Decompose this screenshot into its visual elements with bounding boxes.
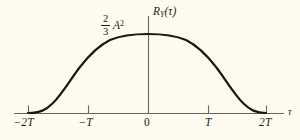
plot-canvas: [0, 0, 300, 140]
autocorrelation-curve: [28, 34, 266, 113]
tick-text: 2T: [259, 116, 272, 128]
x-tick-label-2T: 2T: [259, 117, 272, 129]
tick-text: T: [205, 116, 212, 128]
fraction-two-thirds: 2 3: [101, 14, 110, 37]
x-tick-label-minus-T: −T: [79, 117, 93, 129]
peak-value-label: 2 3 A2: [101, 14, 124, 37]
y-axis-label-symbol: R: [153, 5, 160, 17]
x-tick-label-minus-2T: −2T: [14, 117, 34, 129]
x-tick-label-zero: 0: [144, 117, 150, 129]
tick-text: 2T: [21, 116, 34, 128]
amplitude-squared: A2: [113, 20, 124, 32]
tick-text: 0: [144, 116, 150, 128]
x-tick-label-T: T: [205, 117, 212, 129]
y-axis-label: RY(τ): [153, 6, 176, 19]
fraction-denominator: 3: [102, 26, 109, 37]
fraction-numerator: 2: [102, 14, 109, 25]
tick-text: T: [86, 116, 93, 128]
x-axis-label-symbol: τ: [288, 107, 291, 117]
amplitude-symbol: A: [113, 19, 120, 31]
y-axis-label-paren-close: ): [172, 5, 176, 17]
x-axis-label: τ: [288, 108, 291, 118]
x-axis-ticks: [29, 106, 267, 114]
amplitude-exponent: 2: [120, 19, 124, 28]
autocorrelation-figure: RY(τ) 2 3 A2 −2T −T 0 T 2T τ: [0, 0, 300, 140]
